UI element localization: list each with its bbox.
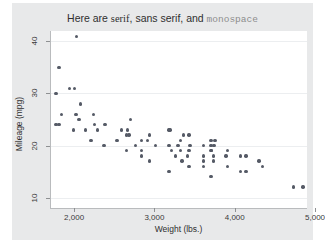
data-point <box>115 139 118 142</box>
data-point <box>72 128 75 131</box>
data-point <box>77 118 80 121</box>
data-point <box>93 123 96 126</box>
data-point <box>202 154 205 157</box>
data-point <box>129 118 132 121</box>
data-point <box>182 133 185 136</box>
data-point <box>212 159 215 162</box>
data-point <box>167 170 170 173</box>
data-point <box>84 128 87 131</box>
title-part-serif: serif <box>111 13 130 24</box>
data-point <box>148 159 151 162</box>
x-tick-label-2000: 2,000 <box>64 213 84 222</box>
gridline-y-40 <box>51 41 307 42</box>
x-tick-label-4000: 4,000 <box>225 213 245 222</box>
gridline-y-30 <box>51 93 307 94</box>
data-point <box>89 139 92 142</box>
data-point <box>239 154 242 157</box>
y-tick-label-20: 20 <box>30 138 39 154</box>
data-point <box>261 165 264 168</box>
data-point <box>257 159 260 162</box>
data-point <box>224 154 227 157</box>
y-tick-10 <box>46 198 50 199</box>
data-point <box>154 144 157 147</box>
data-point <box>209 139 212 142</box>
data-point <box>140 139 143 142</box>
data-point <box>179 139 182 142</box>
data-point <box>202 165 205 168</box>
data-point <box>103 123 106 126</box>
data-point <box>167 144 170 147</box>
x-axis-line <box>50 208 307 209</box>
data-point <box>244 170 247 173</box>
data-point <box>96 128 99 131</box>
x-tick-2000 <box>74 208 75 212</box>
data-point <box>79 102 82 105</box>
title-part-monospace: monospace <box>207 14 258 25</box>
data-point <box>226 165 229 168</box>
y-tick-label-40: 40 <box>30 33 39 49</box>
data-point <box>140 149 143 152</box>
title-part-sans-serif: sans serif <box>135 12 180 24</box>
data-point <box>212 144 215 147</box>
data-point <box>102 144 105 147</box>
data-point <box>60 113 63 116</box>
data-point <box>212 154 215 157</box>
data-point <box>125 133 128 136</box>
data-point <box>74 113 77 116</box>
x-axis-title: Weight (lbs.) <box>50 224 307 234</box>
plot-area <box>50 31 307 208</box>
x-tick-label-3000: 3,000 <box>144 213 164 222</box>
data-point <box>239 170 242 173</box>
data-point <box>73 87 76 90</box>
data-point <box>187 133 190 136</box>
plot-inner <box>51 31 307 208</box>
data-point <box>126 128 129 131</box>
data-point <box>125 149 128 152</box>
data-point <box>120 128 123 131</box>
data-point <box>170 149 173 152</box>
data-point <box>301 185 304 188</box>
data-point <box>54 92 57 95</box>
y-tick-label-30: 30 <box>30 85 39 101</box>
data-point <box>213 139 216 142</box>
x-tick-3000 <box>154 208 155 212</box>
data-point <box>210 149 213 152</box>
x-tick-label-5000: 5,000 <box>305 213 325 222</box>
chart-title: Here are serif, sans serif, and monospac… <box>12 12 313 25</box>
title-part-0: Here are <box>67 12 111 24</box>
data-point <box>179 149 182 152</box>
y-tick-20 <box>46 146 50 147</box>
data-point <box>92 113 95 116</box>
data-point <box>134 144 137 147</box>
y-tick-40 <box>46 41 50 42</box>
gridline-y-10 <box>51 198 307 199</box>
data-point <box>292 185 295 188</box>
data-point <box>146 139 149 142</box>
x-tick-4000 <box>235 208 236 212</box>
data-point <box>226 149 229 152</box>
data-point <box>174 154 177 157</box>
data-point <box>186 154 189 157</box>
y-axis-title: Mileage (mpg) <box>14 79 24 169</box>
data-point <box>140 154 143 157</box>
data-point <box>57 123 60 126</box>
data-point <box>75 35 78 38</box>
data-point <box>187 165 190 168</box>
y-tick-label-10: 10 <box>30 190 39 206</box>
data-point <box>168 128 171 131</box>
data-point <box>180 159 183 162</box>
data-point <box>57 66 60 69</box>
data-point <box>187 149 190 152</box>
title-part-4: , and <box>180 12 206 24</box>
data-point <box>244 154 247 157</box>
data-point <box>202 144 205 147</box>
data-point <box>68 87 71 90</box>
x-tick-5000 <box>315 208 316 212</box>
data-point <box>148 133 151 136</box>
data-point <box>202 159 205 162</box>
data-point <box>188 144 191 147</box>
data-point <box>176 144 179 147</box>
y-tick-30 <box>46 93 50 94</box>
data-point <box>209 175 212 178</box>
